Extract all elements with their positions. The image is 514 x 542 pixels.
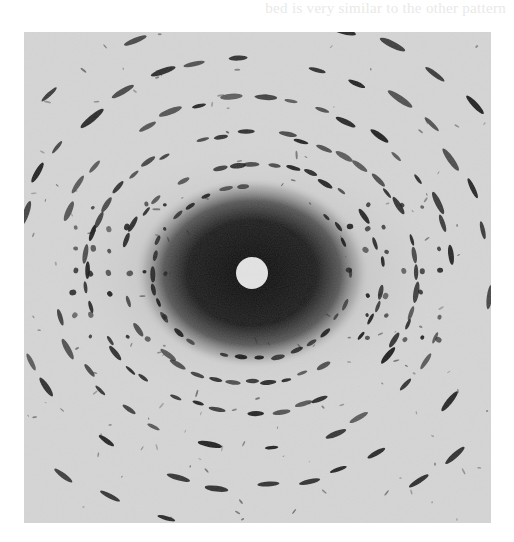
diffraction-pattern — [24, 32, 491, 523]
bleed-through-text-top: bed is very similar to the other pattern — [0, 0, 514, 17]
diffraction-photograph — [24, 32, 491, 523]
film-grain — [24, 32, 491, 523]
